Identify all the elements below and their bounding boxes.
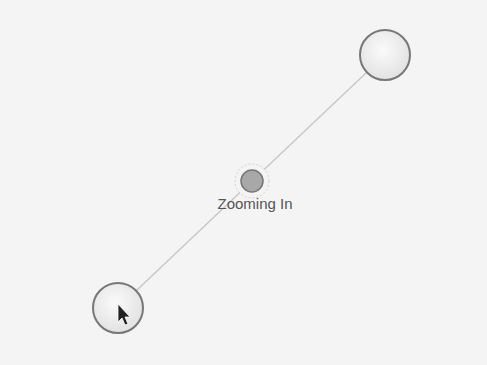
gesture-label: Zooming In: [195, 195, 315, 212]
center-point-icon: [241, 170, 263, 192]
touch-point-upper-right: [360, 30, 410, 80]
pinch-gesture-diagram: [0, 0, 487, 365]
